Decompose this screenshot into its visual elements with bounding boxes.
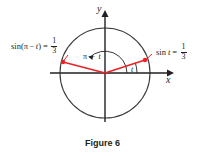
minus-symbol: −: [28, 42, 36, 51]
fraction-one-third: 1 3: [181, 43, 187, 61]
radius-line-left: [63, 62, 105, 73]
figure-container: sin( π − t ) = 1 3 sin t = 1 3 π − t t y…: [0, 0, 205, 156]
label-sin-t-equation: sin t = 1 3: [156, 43, 187, 61]
radius-line-right: [105, 60, 145, 73]
terminal-point-right-marker: [143, 58, 147, 62]
label-angle-t: t: [131, 66, 133, 74]
pi-symbol: π: [83, 52, 87, 61]
unit-circle-diagram: [0, 0, 205, 156]
fraction-one-third: 1 3: [51, 37, 57, 55]
fraction-numerator: 1: [51, 37, 57, 46]
label-sin-supplement-equation: sin( π − t ) = 1 3: [11, 37, 57, 55]
fraction-numerator: 1: [181, 43, 187, 52]
y-axis-arrow-icon: [102, 10, 109, 17]
fraction-denominator: 3: [181, 53, 187, 62]
label-angle-supplement: π − t: [83, 53, 101, 61]
fraction-denominator: 3: [51, 47, 57, 56]
equals-symbol: =: [41, 42, 50, 51]
variable-t: t: [99, 52, 101, 61]
angle-t-arc: [135, 63, 137, 73]
leader-line-left: [64, 55, 69, 61]
y-axis-label: y: [97, 4, 101, 14]
sin-function-text: sin: [156, 48, 166, 57]
terminal-point-left-marker: [61, 60, 65, 64]
minus-symbol: −: [89, 52, 97, 61]
sin-function-text: sin(: [11, 42, 24, 51]
equals-symbol: =: [170, 48, 179, 57]
figure-caption: Figure 6: [0, 138, 205, 148]
x-axis-label: x: [166, 75, 170, 85]
